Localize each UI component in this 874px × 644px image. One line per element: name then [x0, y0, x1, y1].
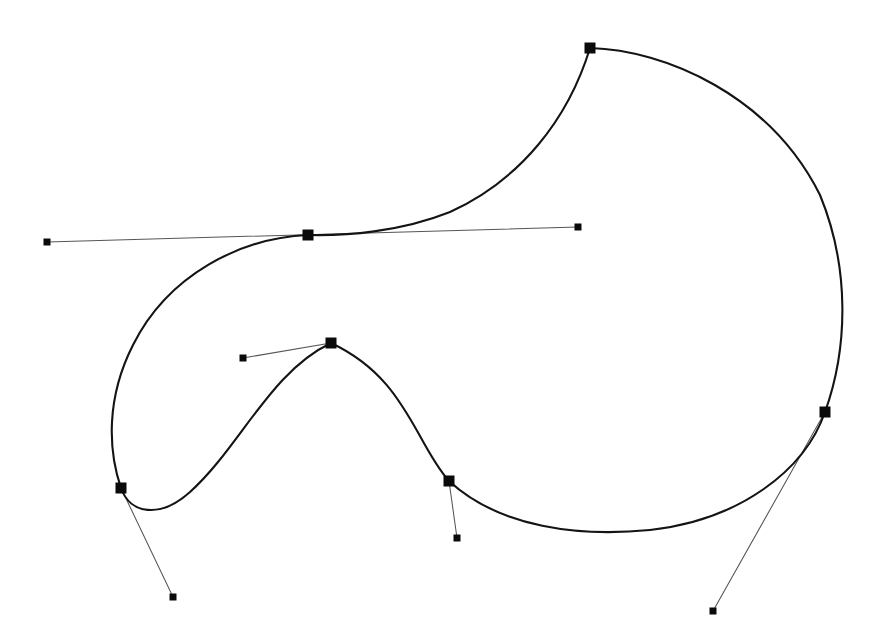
curve-seg-innerpeak-to-bottommid[interactable] [331, 343, 449, 481]
curve-seg-lowerleft-to-innerpeak[interactable] [121, 343, 331, 510]
handle-line-handle-seg-bottom-mid[interactable] [449, 481, 457, 538]
handle-marker-handle-right-out[interactable] [710, 608, 717, 615]
handle-marker-handle-bottom-mid-out[interactable] [454, 535, 461, 542]
anchor-markers-group [116, 43, 831, 494]
curve-seg-upperleft-to-lowerleft[interactable] [112, 235, 308, 488]
spline-canvas[interactable] [0, 0, 874, 644]
handle-marker-handle-lower-left-out[interactable] [170, 594, 177, 601]
canvas-root [0, 0, 874, 644]
anchor-marker-anchor-top[interactable] [585, 43, 596, 54]
handle-marker-handle-inner-peak-in[interactable] [240, 355, 247, 362]
handle-marker-handle-upper-left-in[interactable] [44, 239, 51, 246]
handle-line-handle-seg-lower-left[interactable] [121, 488, 173, 597]
anchor-marker-anchor-inner-peak[interactable] [326, 338, 337, 349]
handle-marker-handle-upper-left-out[interactable] [575, 224, 582, 231]
curve-seg-right-to-top[interactable] [590, 48, 842, 412]
curve-group [112, 48, 843, 532]
anchor-marker-anchor-bottom-mid[interactable] [444, 476, 455, 487]
anchor-marker-anchor-upper-left[interactable] [303, 230, 314, 241]
anchor-marker-anchor-lower-left[interactable] [116, 483, 127, 494]
handle-markers-group [44, 224, 717, 615]
handle-line-handle-seg-right[interactable] [713, 412, 825, 611]
handle-lines-group [47, 227, 825, 611]
anchor-marker-anchor-right[interactable] [820, 407, 831, 418]
curve-seg-top-to-upperleft[interactable] [308, 48, 590, 235]
curve-seg-bottommid-to-right[interactable] [449, 412, 825, 532]
